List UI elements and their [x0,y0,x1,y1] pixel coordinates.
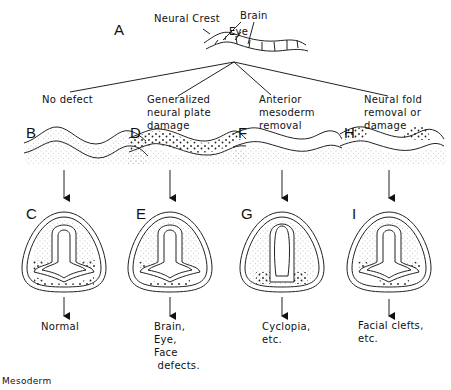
condition-neural-fold: Neural fold removal or damage [364,93,422,132]
section-g [240,212,324,292]
arrows-row-1 [64,170,389,198]
panel-a-neural-plate [203,22,308,51]
panel-letter-c: C [26,205,37,222]
panel-letter-g: G [241,205,253,222]
condition-no-defect: No defect [42,93,93,106]
section-h [340,126,446,165]
arrows-row-2 [64,297,389,316]
panel-letter-i: I [352,205,356,222]
section-f [233,128,342,165]
condition-anterior-mesoderm: Anterior mesoderm removal [259,93,315,132]
panel-letter-a: A [114,21,124,38]
condition-generalized-damage: Generalized neural plate damage [147,93,211,132]
footer-label-mesoderm: Mesoderm [2,375,51,388]
panel-letter-f: F [238,124,247,141]
label-eye: Eye [229,25,248,38]
panel-letter-e: E [136,205,146,222]
section-i [347,212,431,292]
panel-letter-d: D [130,124,141,141]
outcome-brain-eye-face: Brain, Eye, Face defects. [154,320,200,372]
panel-letter-b: B [26,124,36,141]
branch-lines [70,62,388,96]
panel-letter-h: H [344,124,355,141]
label-neural-crest: Neural Crest [154,12,220,25]
section-e [128,212,212,292]
label-brain: Brain [240,9,268,22]
outcome-cyclopia: Cyclopia, etc. [262,320,310,346]
outcome-facial-clefts: Facial clefts, etc. [358,319,424,345]
outcome-normal: Normal [41,320,79,333]
section-c [22,212,106,292]
